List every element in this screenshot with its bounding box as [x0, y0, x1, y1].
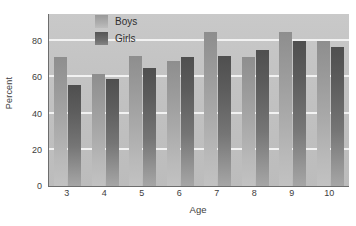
x-axis-line	[48, 186, 349, 187]
y-axis-ticks: 020406080	[18, 14, 42, 186]
bar-girls-age-9	[293, 41, 306, 186]
legend-swatch-boys	[95, 15, 108, 28]
bar-boys-age-7	[204, 32, 217, 186]
x-tick-label: 7	[214, 188, 219, 198]
bar-girls-age-4	[106, 79, 119, 186]
bar-boys-age-9	[279, 32, 292, 186]
legend-item-boys: Boys	[95, 14, 137, 28]
x-tick-label: 5	[139, 188, 144, 198]
x-tick-label: 8	[252, 188, 257, 198]
x-tick-label: 4	[102, 188, 107, 198]
bar-boys-age-5	[129, 56, 142, 186]
bar-boys-age-4	[92, 74, 105, 186]
x-axis-title: Age	[48, 204, 348, 215]
x-axis-title-label: Age	[190, 204, 207, 215]
y-tick-label: 20	[32, 145, 42, 155]
bar-girls-age-5	[143, 68, 156, 186]
bar-girls-age-10	[331, 47, 344, 186]
y-tick-label: 40	[32, 109, 42, 119]
legend-label: Girls	[115, 33, 136, 44]
bar-girls-age-6	[181, 57, 194, 186]
legend-swatch-girls	[95, 32, 108, 45]
bar-boys-age-10	[317, 41, 330, 186]
bar-chart: Percent 020406080 BoysGirls 345678910 Ag…	[0, 0, 356, 226]
bar-boys-age-3	[54, 57, 67, 186]
x-axis-ticks: 345678910	[48, 188, 348, 204]
bar-girls-age-3	[68, 85, 81, 186]
plot-area	[48, 14, 349, 186]
bar-girls-age-7	[218, 56, 231, 186]
y-axis-title-label: Percent	[4, 77, 14, 109]
y-tick-label: 0	[37, 181, 42, 191]
legend-label: Boys	[115, 16, 137, 27]
legend-item-girls: Girls	[95, 31, 137, 45]
y-tick-label: 80	[32, 36, 42, 46]
bar-girls-age-8	[256, 50, 269, 186]
bar-boys-age-6	[167, 61, 180, 186]
y-tick-label: 60	[32, 72, 42, 82]
chart-legend: BoysGirls	[95, 14, 137, 45]
x-tick-label: 9	[289, 188, 294, 198]
y-axis-title: Percent	[0, 0, 18, 186]
x-tick-label: 10	[324, 188, 334, 198]
bars-layer	[49, 14, 349, 186]
x-tick-label: 3	[64, 188, 69, 198]
bar-boys-age-8	[242, 57, 255, 186]
x-tick-label: 6	[177, 188, 182, 198]
